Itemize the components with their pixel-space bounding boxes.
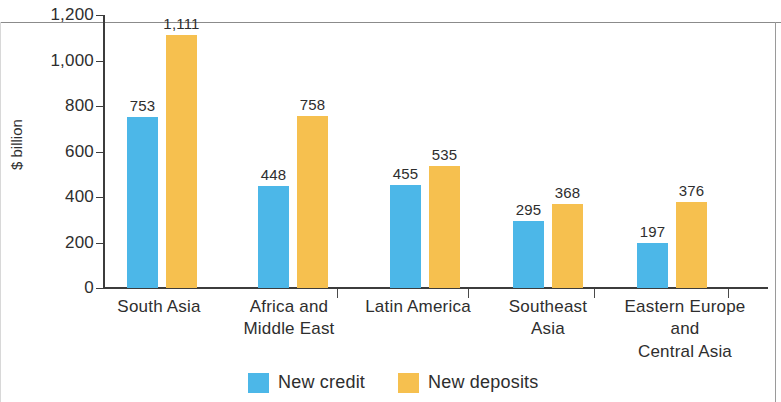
y-tick-mark <box>96 152 103 153</box>
legend-color-swatch <box>398 373 419 393</box>
bar-value-label: 448 <box>261 166 287 183</box>
y-tick-mark <box>96 61 103 62</box>
bar-value-label: 758 <box>300 96 326 113</box>
x-axis-category-label: Africa andMiddle East <box>214 296 364 341</box>
x-axis-category-label: SoutheastAsia <box>478 296 618 341</box>
bar-new-credit[interactable]: 448 <box>258 186 289 288</box>
x-axis-category-label: Eastern EuropeandCentral Asia <box>605 296 765 363</box>
y-tick-mark <box>96 243 103 244</box>
category-label-line: and <box>605 318 765 340</box>
bar-group: 448758 <box>258 15 328 288</box>
category-label-line: Middle East <box>214 318 364 340</box>
bar-new-credit[interactable]: 753 <box>127 117 158 288</box>
chart-legend: New creditNew deposits <box>248 372 538 393</box>
y-tick-label: 200 <box>65 233 94 253</box>
y-tick-label: 800 <box>65 96 94 116</box>
y-tick-mark <box>96 288 103 289</box>
bar-new-deposits[interactable]: 368 <box>552 204 583 288</box>
legend-label: New deposits <box>428 372 538 393</box>
bar-value-label: 455 <box>393 165 419 182</box>
y-tick-label: 400 <box>65 187 94 207</box>
plot-area: 7531,111448758455535295368197376 <box>103 15 775 288</box>
x-axis-category-label: South Asia <box>84 296 234 318</box>
bar-group: 455535 <box>390 15 460 288</box>
bar-value-label: 1,111 <box>163 15 199 32</box>
page-border-left <box>0 22 1 402</box>
bar-group: 7531,111 <box>127 15 197 288</box>
category-label-line: Latin America <box>343 296 493 318</box>
bar-value-label: 376 <box>679 182 705 199</box>
legend-item-new-credit[interactable]: New credit <box>248 372 365 393</box>
y-axis-title: $ billion <box>8 119 25 170</box>
legend-color-swatch <box>248 373 269 393</box>
category-label-line: Southeast <box>478 296 618 318</box>
bar-value-label: 197 <box>640 223 666 240</box>
category-label-line: South Asia <box>84 296 234 318</box>
bar-group: 197376 <box>637 15 707 288</box>
bar-new-credit[interactable]: 295 <box>513 221 544 288</box>
bar-new-deposits[interactable]: 535 <box>429 166 460 288</box>
legend-label: New credit <box>278 372 365 393</box>
category-label-line: Central Asia <box>605 341 765 363</box>
y-tick-label: 600 <box>65 142 94 162</box>
category-label-line: Africa and <box>214 296 364 318</box>
y-tick-mark <box>96 15 103 16</box>
y-tick-label: 1,000 <box>50 51 94 71</box>
legend-item-new-deposits[interactable]: New deposits <box>398 372 538 393</box>
bar-value-label: 753 <box>130 97 156 114</box>
bar-new-deposits[interactable]: 1,111 <box>166 35 197 288</box>
category-label-line: Eastern Europe <box>605 296 765 318</box>
bar-new-deposits[interactable]: 758 <box>297 116 328 288</box>
bar-new-credit[interactable]: 455 <box>390 185 421 289</box>
y-tick-label: 1,200 <box>50 5 94 25</box>
bar-value-label: 535 <box>432 146 458 163</box>
page-border-right <box>775 22 776 402</box>
category-label-line: Asia <box>478 318 618 340</box>
bar-new-credit[interactable]: 197 <box>637 243 668 288</box>
y-tick-mark <box>96 197 103 198</box>
bar-value-label: 368 <box>555 184 581 201</box>
bar-group: 295368 <box>513 15 583 288</box>
y-tick-label: 0 <box>84 278 94 298</box>
bar-value-label: 295 <box>516 201 542 218</box>
x-axis-category-label: Latin America <box>343 296 493 318</box>
bar-new-deposits[interactable]: 376 <box>676 202 707 288</box>
y-tick-mark <box>96 106 103 107</box>
